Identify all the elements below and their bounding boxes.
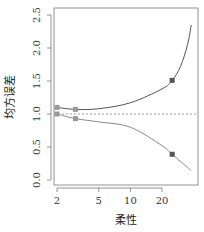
y-tick-label: 0.5 xyxy=(31,139,42,155)
data-marker xyxy=(55,105,60,110)
x-axis: 251020 xyxy=(54,188,169,206)
x-tick-label: 10 xyxy=(124,195,137,206)
x-tick-label: 2 xyxy=(54,195,60,206)
curve-upper xyxy=(57,25,191,110)
y-tick-label: 1.5 xyxy=(31,73,42,89)
data-marker xyxy=(73,107,78,112)
data-marker xyxy=(170,78,175,83)
y-tick-label: 2.5 xyxy=(31,7,42,23)
data-marker xyxy=(170,152,175,157)
y-tick-label: 2.0 xyxy=(31,40,42,56)
x-tick-label: 20 xyxy=(156,195,169,206)
y-tick-label: 1.0 xyxy=(31,106,42,122)
data-marker xyxy=(73,116,78,121)
y-axis-label: 均方误差 xyxy=(3,75,17,119)
x-tick-label: 5 xyxy=(96,195,102,206)
y-tick-label: 0.0 xyxy=(31,172,42,188)
x-axis-label: 柔性 xyxy=(115,213,137,227)
series-group xyxy=(55,25,192,171)
chart: 0.00.51.01.52.02.5 251020 柔性 均方误差 xyxy=(0,0,204,232)
data-marker xyxy=(55,112,60,117)
y-axis: 0.00.51.01.52.02.5 xyxy=(31,7,51,188)
curve-lower xyxy=(57,114,191,171)
